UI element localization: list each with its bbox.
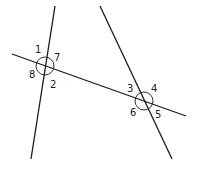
angle-label-4: 4 xyxy=(151,83,157,94)
angle-label-3: 3 xyxy=(127,83,133,94)
angle-label-2: 2 xyxy=(50,79,56,90)
angle-label-7: 7 xyxy=(54,52,60,63)
angle-label-6: 6 xyxy=(130,107,136,118)
angle-label-5: 5 xyxy=(155,109,161,120)
angle-diagram: 1 7 8 2 3 4 6 5 xyxy=(0,0,198,169)
right-line xyxy=(100,6,172,159)
transversal-line xyxy=(12,54,186,116)
angle-label-8: 8 xyxy=(29,69,35,80)
angle-label-1: 1 xyxy=(35,44,41,55)
